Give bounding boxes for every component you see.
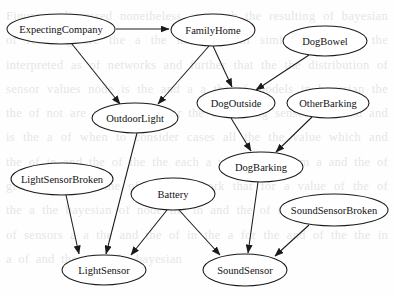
edge-expectingcompany-to-outdoorlight [72,44,120,104]
edges-layer [66,29,312,256]
edge-otherbarking-to-dogbarking [276,117,312,152]
node-lightsensorbroken[interactable] [11,163,113,195]
node-lightsensor[interactable] [62,255,146,285]
edge-familyhome-to-dogoutside [213,46,232,87]
node-dogbarking[interactable] [219,152,303,182]
node-dogbowel[interactable] [283,26,367,56]
node-outdoorlight[interactable] [92,103,178,133]
node-familyhome[interactable] [171,14,255,46]
edge-dogbarking-to-soundsensor [248,182,258,253]
edge-lightsensorbroken-to-lightsensor [66,195,79,254]
node-expectingcompany[interactable] [7,14,115,44]
node-battery[interactable] [131,178,215,210]
node-dogoutside[interactable] [197,88,275,118]
node-otherbarking[interactable] [287,88,369,118]
bayesian-network-figure: Figure a discussed nonetheless approach … [0,0,394,298]
node-soundsensor[interactable] [203,254,287,286]
edge-dogbowel-to-dogoutside [256,55,309,90]
edge-dogoutside-to-dogbarking [231,118,251,151]
edge-soundsensorbroken-to-soundsensor [275,225,309,256]
edge-familyhome-to-outdoorlight [158,46,209,104]
edge-battery-to-lightsensor [131,210,167,255]
edge-battery-to-soundsensor [179,210,220,255]
network-graph [0,0,394,298]
nodes-layer [7,14,388,286]
node-soundsensorbroken[interactable] [280,194,388,226]
